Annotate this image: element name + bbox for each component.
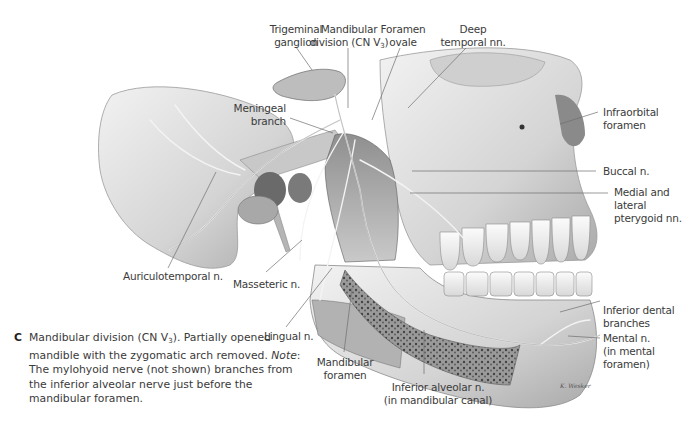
- upper-tooth: [552, 218, 570, 262]
- figure-caption: C Mandibular division (CN V3). Partially…: [14, 331, 304, 407]
- upper-tooth: [532, 220, 550, 264]
- lower-tooth: [576, 272, 592, 296]
- mandibular-condyle: [238, 196, 278, 224]
- upper-tooth: [510, 222, 530, 260]
- leader-meningeal: [290, 118, 333, 133]
- upper-tooth: [440, 232, 460, 270]
- lower-tooth: [466, 272, 488, 296]
- label-buccal-n: Buccal n.: [603, 165, 649, 178]
- label-auriculotemporal-n: Auriculotemporal n.: [123, 270, 223, 283]
- infraorbital-foramen: [520, 125, 525, 130]
- caption-text: Mandibular division (CN V3). Partially o…: [14, 331, 304, 407]
- lower-tooth: [514, 272, 534, 296]
- artist-signature: K. Wesker: [559, 382, 592, 389]
- label-pterygoid-nn: Medial and lateral pterygoid nn.: [614, 186, 682, 225]
- label-inferior-dental-branches: Inferior dental branches: [603, 304, 674, 330]
- label-infraorbital-foramen: Infraorbital foramen: [603, 106, 659, 132]
- upper-tooth: [572, 216, 590, 260]
- label-meningeal-branch: Meningeal branch: [230, 102, 286, 128]
- lower-tooth: [444, 272, 464, 296]
- label-inferior-alveolar-n: Inferior alveolar n. (in mandibular cana…: [378, 381, 498, 407]
- lower-tooth: [490, 272, 512, 296]
- upper-tooth: [486, 224, 508, 262]
- panel-letter: C: [14, 331, 22, 346]
- upper-tooth: [462, 228, 484, 266]
- label-mental-n: Mental n. (in mental foramen): [603, 332, 655, 371]
- label-masseteric-n: Masseteric n.: [233, 278, 300, 291]
- label-deep-temporal: Deep temporal nn.: [438, 23, 508, 49]
- lower-tooth: [556, 272, 574, 296]
- label-mandibular-foramen: Mandibular foramen: [312, 356, 378, 382]
- lower-tooth: [536, 272, 554, 296]
- label-foramen-ovale: Foramen ovale: [378, 23, 428, 49]
